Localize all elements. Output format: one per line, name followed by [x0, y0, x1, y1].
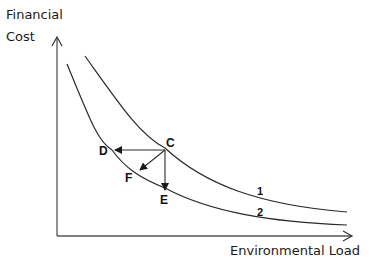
curve-1 [85, 56, 347, 212]
curve-2-label: 2 [257, 206, 263, 218]
diagram-canvas: Financial Cost Environmental Load 1 2 C … [0, 0, 371, 265]
point-d-label: D [99, 144, 108, 158]
x-axis-label: Environmental Load [230, 243, 360, 258]
y-axis-label-line2: Cost [6, 29, 35, 44]
point-f-label: F [125, 171, 132, 185]
point-e-label: E [160, 193, 168, 207]
arrow-c-to-f [140, 150, 165, 170]
cost-load-diagram: Financial Cost Environmental Load 1 2 C … [0, 0, 371, 265]
curve-2 [67, 64, 347, 225]
point-c-label: C [166, 136, 175, 150]
axes [52, 37, 352, 241]
y-axis-label-line1: Financial [6, 7, 63, 22]
curve-1-label: 1 [257, 185, 263, 197]
